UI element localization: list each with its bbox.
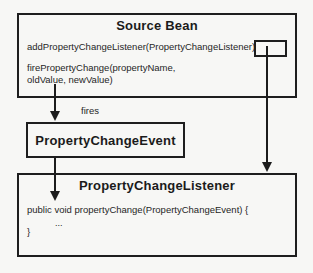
property-change-listener-title: PropertyChangeListener [19,178,295,193]
diagram-canvas: Source Bean addPropertyChangeListener(Pr… [0,0,313,273]
reference-to-listener-arrow-head [262,162,272,172]
property-change-listener-box: PropertyChangeListener public void prope… [17,173,297,257]
fire-property-change-method-line1: firePropertyChange(propertyName, [27,62,175,74]
fires-arrow [54,84,56,113]
fires-label: fires [81,105,99,116]
source-bean-title: Source Bean [19,18,295,33]
property-change-code-line: public void propertyChange(PropertyChang… [27,204,248,216]
fire-property-change-method-line2: oldValue, newValue) [27,74,113,86]
code-ellipsis: ... [55,217,63,229]
listener-reference-box [254,40,287,57]
property-change-event-title: PropertyChangeEvent [28,133,183,148]
reference-to-listener-arrow [266,46,268,163]
event-to-listener-arrow [54,158,56,192]
add-property-change-listener-method: addPropertyChangeListener(PropertyChange… [27,41,255,53]
fires-arrow-head [50,111,60,121]
code-closing-brace: } [27,226,30,238]
event-to-listener-arrow-head [50,191,60,201]
property-change-event-box: PropertyChangeEvent [26,122,185,158]
